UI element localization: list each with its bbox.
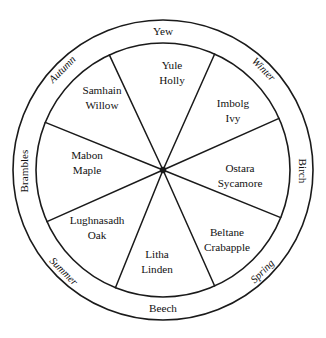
wheel-svg-canvas: YuleHollyImbolgIvyOstaraSycamoreBeltaneC… — [0, 0, 326, 338]
segment-tree-label: Holly — [159, 74, 185, 86]
segment-tree-label: Crabapple — [204, 241, 250, 253]
segment-beltane: BeltaneCrabapple — [204, 226, 250, 253]
spoke-divider-0 — [163, 54, 215, 170]
segment-tree-label: Oak — [88, 229, 107, 241]
segment-festival-label: Mabon — [71, 149, 103, 161]
segment-tree-label: Linden — [141, 263, 173, 275]
ring-tree-label-top: Yew — [153, 25, 174, 37]
segment-festival-label: Beltane — [210, 226, 244, 238]
segment-festival-label: Ostara — [225, 162, 254, 174]
segment-yule: YuleHolly — [159, 59, 185, 86]
center-hub-dot — [160, 167, 166, 173]
ring-tree-label-left: Brambles — [18, 150, 30, 193]
segment-festival-label: Litha — [145, 248, 169, 260]
segment-tree-label: Sycamore — [218, 177, 263, 189]
segment-litha: LithaLinden — [141, 248, 173, 275]
spoke-divider-7 — [109, 55, 163, 170]
segment-lughnasadh: LughnasadhOak — [70, 214, 125, 241]
wheel-of-the-year-diagram: YuleHollyImbolgIvyOstaraSycamoreBeltaneC… — [0, 0, 326, 338]
ring-tree-label-right: Birch — [297, 159, 309, 184]
spoke-divider-1 — [163, 118, 279, 170]
ring-season-label-lower-right: Spring — [248, 257, 276, 285]
segment-mabon: MabonMaple — [71, 149, 103, 176]
segment-samhain: SamhainWillow — [82, 84, 122, 111]
segment-labels-group: YuleHollyImbolgIvyOstaraSycamoreBeltaneC… — [70, 59, 263, 275]
segment-festival-label: Imbolg — [217, 97, 250, 109]
ring-tree-label-bottom: Beech — [149, 302, 177, 314]
segment-festival-label: Yule — [162, 59, 183, 71]
segment-tree-label: Willow — [85, 99, 119, 111]
segment-tree-label: Maple — [73, 164, 102, 176]
segment-ostara: OstaraSycamore — [218, 162, 263, 189]
segment-imbolg: ImbolgIvy — [217, 97, 250, 124]
segment-festival-label: Lughnasadh — [70, 214, 125, 226]
segment-tree-label: Ivy — [226, 112, 241, 124]
segment-festival-label: Samhain — [82, 84, 122, 96]
spoke-divider-6 — [45, 122, 163, 170]
